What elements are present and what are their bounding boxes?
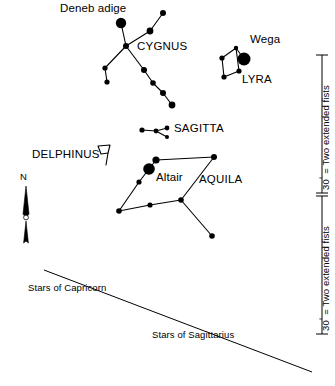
label-stars-of-sagittarius: Stars of Sagittarius [152,330,234,340]
star-lyra-e [236,68,241,73]
star-lyra-s [221,74,226,79]
star-aquila-center [178,197,184,203]
link-aqlwsw-aqlsw [119,182,139,211]
compass-north-arrow [23,186,29,243]
link-sadr-wingmidw [105,46,126,68]
star-deneb-adige [116,18,126,28]
scale-bottom-caption: = Two extended fists [320,226,331,317]
star-cygnus-tail-1 [141,67,147,73]
star-aquila-wsw [136,179,141,184]
star-cygnus-wing-tip-e [160,10,166,16]
needle-pivot-icon [24,215,29,220]
star-cygnus-tail-end [169,102,176,109]
star-sagitta-tail [139,127,144,132]
star-sagitta-mid [154,129,159,134]
link-tarazed-aqlne [156,157,214,160]
needle-south-half-icon [24,221,29,243]
constellation-sagitta [139,126,169,139]
label-altair: Altair [156,172,183,184]
label-scale-bottom: 30° = Two extended fists [319,226,331,331]
star-sadr [123,43,129,49]
label-wega: Wega [250,34,280,46]
scale-top-caption: = Two extended fists [320,85,331,176]
link-aqlcenter-aqlse [181,200,212,236]
link-aqlsmid-aqlcenter [150,200,181,205]
star-wega [238,53,251,66]
star-aquila-ne [211,154,217,160]
label-cygnus: CYGNUS [137,41,187,53]
lyra-parallelogram [222,48,239,77]
label-lyra: LYRA [242,74,272,86]
aquila-links [119,157,214,236]
star-cygnus-tail-2 [150,80,156,86]
label-delphinus: DELPHINUS [32,149,100,161]
link-aqlsw-aqlsmid [119,205,150,211]
star-lyra-n [234,46,238,50]
star-lyra-w [219,55,224,60]
star-chart-figure: Deneb adige CYGNUS Wega LYRA SAGITTA DEL… [0,0,335,386]
delphinus-tail [106,153,108,165]
label-stars-of-capricorn: Stars of Capricorn [28,283,106,293]
label-scale-top: 30° = Two extended fists [319,85,331,190]
constellation-aquila [116,154,217,239]
constellation-cygnus [102,10,175,108]
star-gienah [147,28,154,35]
star-sagitta-barb [165,135,169,139]
label-sagitta: SAGITTA [174,123,224,135]
needle-north-half-icon [23,186,29,218]
star-aquila-sw [116,208,122,214]
scale-top-degrees: 30 [320,179,331,190]
label-deneb-adige: Deneb adige [60,3,126,15]
scale-bottom-degrees: 30 [320,320,331,331]
star-tarazed [152,156,159,163]
star-cygnus-wing-mid-w [102,65,107,70]
star-cygnus-wing-tip-w [104,79,109,84]
star-albireo [160,90,166,96]
star-aquila-se [209,233,215,239]
star-altair [143,163,155,175]
label-north: N [20,172,27,182]
star-sagitta-head [165,126,170,131]
star-aquila-s-mid [147,202,152,207]
label-aquila: AQUILA [199,174,242,186]
